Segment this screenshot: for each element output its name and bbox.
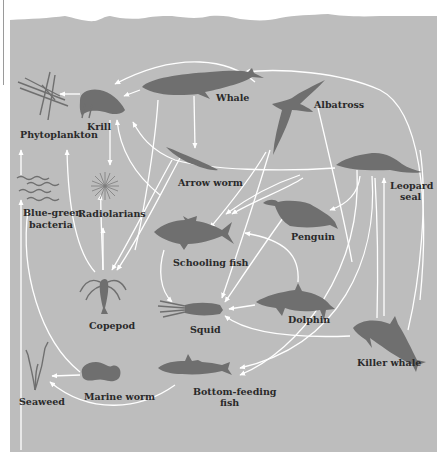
label-copepod: Copepod (89, 320, 136, 331)
label-albatross: Albatross (313, 99, 364, 110)
radiolarians-icon (91, 172, 119, 200)
label-dolphin: Dolphin (288, 314, 330, 325)
label-krill: Krill (87, 121, 111, 132)
label-schooling-fish: Schooling fish (173, 257, 249, 268)
label-marine-worm: Marine worm (84, 391, 155, 402)
label-bottom-feeding-line1: Bottom-feeding (193, 386, 277, 397)
label-blue-green-line1: Blue-green (23, 207, 82, 218)
label-penguin: Penguin (291, 231, 335, 242)
label-leopard-seal-line1: Leopard (390, 180, 434, 191)
label-leopard-seal-line2: seal (400, 191, 422, 202)
label-whale: Whale (215, 92, 249, 103)
label-arrow-worm: Arrow worm (177, 177, 243, 188)
label-radiolarians: Radiolarians (78, 208, 146, 219)
food-web-diagram: Phytoplankton Krill Whale Albatross Arro… (0, 0, 442, 457)
label-bottom-feeding-line2: fish (220, 397, 239, 408)
label-seaweed: Seaweed (19, 396, 65, 407)
label-killer-whale: Killer whale (357, 357, 421, 368)
label-blue-green-line2: bacteria (29, 219, 73, 230)
label-squid: Squid (190, 324, 221, 335)
